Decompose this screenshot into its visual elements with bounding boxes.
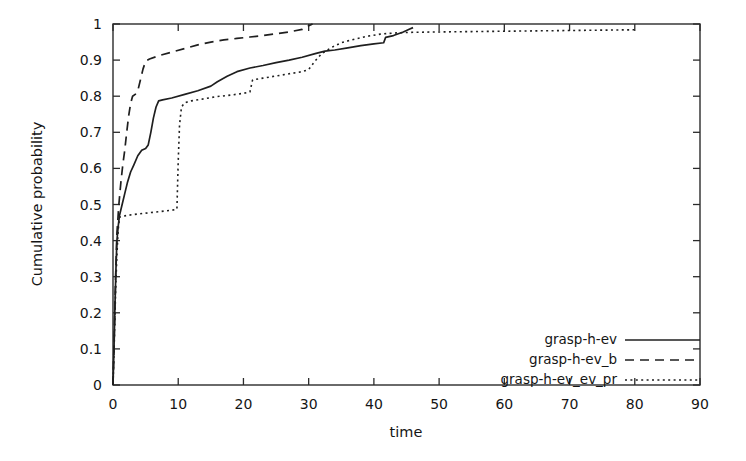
y-tick-label-0.9: 0.9 <box>80 52 102 68</box>
x-tick-label-40: 40 <box>365 396 383 412</box>
x-tick-label-70: 70 <box>561 396 579 412</box>
x-tick-label-90: 90 <box>691 396 709 412</box>
legend-label-grasp-h-ev: grasp-h-ev <box>544 331 617 347</box>
cdf-plot-figure: 0102030405060708090 00.10.20.30.40.50.60… <box>0 0 746 461</box>
x-tick-label-80: 80 <box>626 396 644 412</box>
figure-background <box>0 0 746 461</box>
y-tick-label-0.1: 0.1 <box>80 341 102 357</box>
y-tick-label-0.6: 0.6 <box>80 160 102 176</box>
y-tick-label-0.4: 0.4 <box>80 233 102 249</box>
x-tick-label-30: 30 <box>300 396 318 412</box>
legend-label-grasp-h-ev_b: grasp-h-ev_b <box>529 351 617 367</box>
x-tick-label-50: 50 <box>430 396 448 412</box>
y-tick-label-0.7: 0.7 <box>80 124 102 140</box>
y-tick-label-0.5: 0.5 <box>80 197 102 213</box>
x-tick-label-20: 20 <box>235 396 253 412</box>
x-tick-label-10: 10 <box>169 396 187 412</box>
y-axis-title: Cumulative probability <box>29 121 45 286</box>
x-tick-label-0: 0 <box>109 396 118 412</box>
y-tick-label-0.3: 0.3 <box>80 269 102 285</box>
x-axis-title: time <box>390 424 423 440</box>
y-tick-label-0.8: 0.8 <box>80 88 102 104</box>
legend-label-grasp-h-ev_ev_pr: grasp-h-ev_ev_pr <box>500 371 617 387</box>
y-tick-label-0: 0 <box>93 377 102 393</box>
y-tick-label-1: 1 <box>93 16 102 32</box>
y-tick-label-0.2: 0.2 <box>80 305 102 321</box>
x-tick-label-60: 60 <box>495 396 513 412</box>
